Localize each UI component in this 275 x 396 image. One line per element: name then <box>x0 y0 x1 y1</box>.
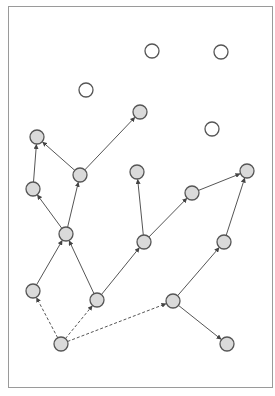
graph-node-filled <box>26 182 40 196</box>
edge <box>43 142 75 170</box>
graph-node-filled <box>220 337 234 351</box>
graph-node-empty <box>214 45 228 59</box>
graph-node-empty <box>145 44 159 58</box>
dashed-edge <box>37 298 58 338</box>
graph-node-filled <box>240 164 254 178</box>
edge <box>85 117 135 169</box>
graph-node-filled <box>30 130 44 144</box>
graph-node-filled <box>217 235 231 249</box>
edge <box>69 241 94 294</box>
graph-node-filled <box>185 186 199 200</box>
edge <box>226 178 245 235</box>
graph-node-filled <box>59 227 73 241</box>
dashed-edge <box>68 304 167 342</box>
graph-node-filled <box>130 165 144 179</box>
diagram-frame <box>9 7 273 388</box>
graph-node-filled <box>166 294 180 308</box>
edge <box>179 305 222 339</box>
edge <box>149 198 187 237</box>
edge <box>138 180 144 236</box>
edge <box>37 241 63 285</box>
graph-node-filled <box>133 105 147 119</box>
edge <box>178 248 220 296</box>
graph-node-filled <box>90 293 104 307</box>
edge <box>68 182 79 227</box>
graph-node-filled <box>137 235 151 249</box>
graph-node-filled <box>26 284 40 298</box>
graph-node-empty <box>79 83 93 97</box>
graph-node-filled <box>54 337 68 351</box>
graph-node-filled <box>73 168 87 182</box>
edge <box>37 195 62 228</box>
graph-node-empty <box>205 122 219 136</box>
edge <box>199 174 241 191</box>
graph-diagram <box>0 0 275 396</box>
edge <box>101 248 139 295</box>
edge <box>34 145 37 183</box>
